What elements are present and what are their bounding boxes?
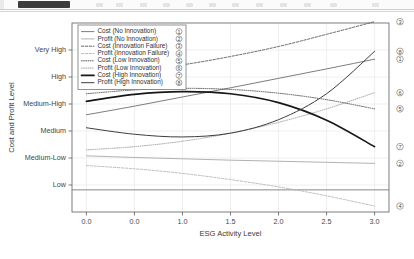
svg-text:4: 4	[398, 203, 401, 209]
toolbar-icon-slot[interactable]	[96, 3, 103, 7]
series-end-marker-1: 1	[397, 56, 404, 63]
toolbar-icon-slot[interactable]	[186, 3, 193, 7]
y-tick-label: Low	[53, 180, 67, 189]
x-tick-label: 3.0	[370, 217, 380, 226]
legend-marker-number-1: 1	[178, 29, 181, 35]
legend-marker-number-5: 5	[178, 58, 181, 64]
legend-marker-number-7: 7	[178, 73, 181, 79]
toolbar-active-button[interactable]	[18, 1, 70, 8]
toolbar-icon-slot[interactable]	[116, 3, 123, 7]
x-tick-label: 2.5	[322, 217, 332, 226]
svg-text:2: 2	[398, 161, 401, 167]
svg-text:5: 5	[398, 106, 401, 112]
chart-legend[interactable]: Cost (No Innovation)1Profit (No Innovati…	[78, 25, 186, 89]
toolbar-icon-slot[interactable]	[330, 3, 337, 7]
y-axis-label: Cost and Profit Level	[7, 82, 16, 153]
x-tick-label: 1.0	[177, 217, 187, 226]
legend-label-8: Profit (High Innovation)	[98, 78, 163, 86]
svg-text:7: 7	[398, 144, 401, 150]
legend-marker-number-6: 6	[178, 65, 181, 71]
series-end-markers: 12345678	[397, 18, 404, 209]
toolbar-divider	[0, 9, 414, 10]
x-tick-label: 2.0	[274, 217, 284, 226]
series-end-marker-8: 8	[397, 48, 404, 55]
toolbar-icon-slot[interactable]	[372, 3, 379, 7]
y-tick-label: Medium-Low	[25, 153, 67, 162]
toolbar-icon-slot[interactable]	[280, 3, 287, 7]
series-end-marker-7: 7	[397, 143, 404, 150]
toolbar-icon-slot[interactable]	[304, 3, 311, 7]
x-axis-ticks: 0.00.01.01.52.02.53.0	[81, 212, 379, 226]
screenshot-root: LowMedium-LowMediumMedium-HighHighVery H…	[0, 0, 414, 259]
line-chart: LowMedium-LowMediumMedium-HighHighVery H…	[0, 11, 414, 259]
svg-text:6: 6	[398, 90, 401, 96]
x-axis-label: ESG Activity Level	[199, 229, 261, 238]
x-tick-label: 0.0	[81, 217, 91, 226]
y-tick-label: Very High	[35, 45, 66, 54]
legend-marker-number-4: 4	[178, 51, 181, 57]
toolbar-icon-slot[interactable]	[163, 3, 170, 7]
series-end-marker-4: 4	[397, 203, 404, 210]
y-tick-label: Medium	[40, 126, 66, 135]
series-end-marker-2: 2	[397, 160, 404, 167]
legend-marker-number-8: 8	[178, 80, 181, 86]
svg-text:8: 8	[398, 49, 401, 55]
y-axis-ticks: LowMedium-LowMediumMedium-HighHighVery H…	[23, 45, 72, 189]
x-tick-label: 0.0	[129, 217, 139, 226]
legend-marker-number-2: 2	[178, 36, 181, 42]
chart-area: LowMedium-LowMediumMedium-HighHighVery H…	[0, 11, 414, 259]
series-end-marker-3: 3	[397, 18, 404, 25]
svg-text:3: 3	[398, 19, 401, 25]
svg-text:1: 1	[398, 56, 401, 62]
toolbar-icon-slot[interactable]	[140, 3, 147, 7]
toolbar-icon-slot[interactable]	[209, 3, 216, 7]
series-end-marker-6: 6	[397, 89, 404, 96]
x-tick-label: 1.5	[226, 217, 236, 226]
toolbar-icon-slot[interactable]	[256, 3, 263, 7]
y-tick-label: High	[51, 72, 66, 81]
toolbar-icon-slot[interactable]	[232, 3, 239, 7]
y-tick-label: Medium-High	[23, 99, 66, 108]
legend-marker-number-3: 3	[178, 43, 181, 49]
series-end-marker-5: 5	[397, 106, 404, 113]
